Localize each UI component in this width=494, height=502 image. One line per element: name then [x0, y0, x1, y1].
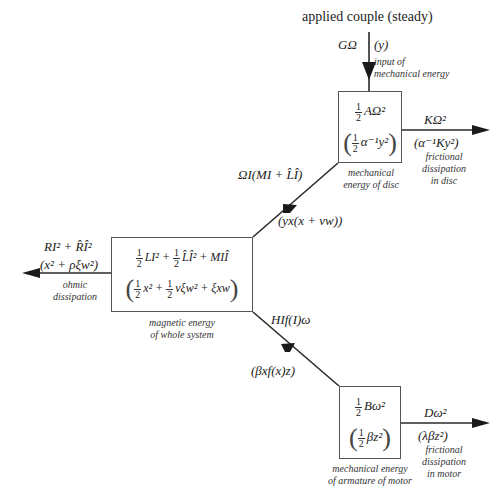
disc-caption: mechanical energy of disc — [335, 167, 407, 191]
disc-to-magnetic-power: ΩI(MI + L̂Î) — [238, 168, 302, 181]
magnetic-caption: magnetic energy of whole system — [136, 317, 228, 341]
motor-loss-caption: frictional dissipation in motor — [408, 444, 480, 480]
disc-loss-scaled: (α⁻¹Ky²) — [414, 136, 459, 149]
input-power-scaled: (y) — [374, 38, 388, 51]
input-power: GΩ — [338, 38, 357, 51]
motor-energy-scaled: (12βz²) — [340, 423, 400, 453]
disc-to-magnetic-scaled: (yx(x + νw)) — [278, 214, 342, 227]
magnetic-to-motor-power: HIf(I)ω — [271, 313, 311, 326]
motor-energy-eq: 12Bω² — [340, 397, 400, 418]
magnetic-energy-box: 12LI² + 12L̂Î² + MIÎ (12x² + 12νξw² + ξx… — [111, 237, 253, 312]
ohmic-loss-scaled: (x² + ρξw²) — [40, 258, 98, 271]
magnetic-energy-scaled: (12x² + 12νξw² + ξxw) — [112, 274, 252, 304]
motor-loss-power: Dω² — [424, 406, 446, 419]
motor-caption: mechanical energy of armature of motor — [318, 463, 422, 487]
input-label: applied couple (steady) — [302, 10, 433, 24]
disc-energy-scaled: (12α⁻¹y²) — [339, 128, 401, 158]
arrow-left-icon — [22, 268, 40, 278]
disc-loss-caption: frictional dissipation in disc — [408, 151, 480, 187]
magnetic-energy-eq: 12LI² + 12L̂Î² + MIÎ — [112, 248, 252, 269]
disc-loss-power: KΩ² — [424, 113, 446, 126]
arrow-right-icon-motor — [472, 418, 490, 428]
arrow-right-icon — [472, 125, 490, 135]
disc-energy-box: 12AΩ² (12α⁻¹y²) — [338, 91, 402, 163]
ohmic-caption: ohmic dissipation — [44, 279, 106, 303]
input-caption: input of mechanical energy — [374, 56, 449, 80]
arrow-down-left-icon — [283, 204, 297, 213]
ohmic-loss-power: RI² + R̂Î² — [44, 240, 92, 253]
arrow-down-right-icon — [281, 343, 295, 352]
motor-loss-scaled: (λβz²) — [418, 429, 448, 442]
magnetic-to-motor-scaled: (βxf(x)z) — [251, 364, 295, 377]
disc-energy-eq: 12AΩ² — [339, 102, 401, 123]
motor-energy-box: 12Bω² (12βz²) — [339, 386, 401, 459]
